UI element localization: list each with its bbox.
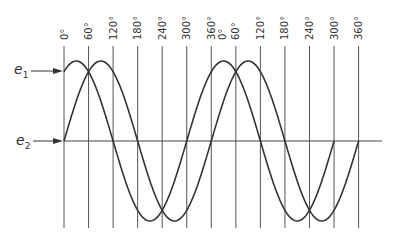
tick-label: 0° (217, 29, 228, 40)
tick-label: 0° (59, 29, 70, 40)
tick-label: 180° (132, 16, 143, 40)
arrowhead-e1-icon (53, 68, 63, 74)
tick-label: 60° (230, 22, 241, 40)
arrowhead-e2-icon (53, 138, 63, 144)
tick-label: 120° (108, 16, 119, 40)
tick-label: 240° (157, 16, 168, 40)
tick-label: 60° (83, 22, 94, 40)
degree-tick-labels: 0°60°120°180°240°300°360°0°60°120°180°24… (59, 16, 365, 40)
tick-label: 180° (279, 16, 290, 40)
tick-label: 300° (181, 16, 192, 40)
label-e1: e1 (14, 61, 28, 80)
tick-label: 120° (255, 16, 266, 40)
tick-label: 240° (304, 16, 315, 40)
tick-label: 360° (353, 16, 364, 40)
tick-label: 300° (329, 16, 340, 40)
label-e2: e2 (16, 132, 30, 151)
tick-label: 360° (206, 16, 217, 40)
phase-diagram: 0°60°120°180°240°300°360°0°60°120°180°24… (0, 0, 395, 240)
